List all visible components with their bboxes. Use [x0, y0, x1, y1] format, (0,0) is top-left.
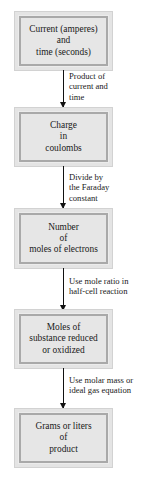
node-current-time: Current (amperes) and time (seconds) [15, 12, 112, 70]
node-charge: Charge in coulombs [15, 108, 112, 166]
node-moles-substance-inner: Moles of substance reduced or oxidized [19, 314, 108, 364]
edge-label: Use mole ratio in half-cell reaction [69, 276, 128, 297]
node-label: Current (amperes) and time (seconds) [29, 24, 97, 58]
arrow-down-icon [63, 268, 64, 310]
arrow-down-icon [63, 166, 64, 208]
node-moles-electrons: Number of moles of electrons [15, 209, 112, 268]
edge-label: Divide by the Faraday constant [69, 172, 109, 203]
node-label: Charge in coulombs [45, 120, 81, 154]
arrow-down-icon [63, 368, 64, 408]
node-current-time-inner: Current (amperes) and time (seconds) [19, 16, 108, 66]
edge-label: Use molar mass or ideal gas equation [69, 375, 133, 396]
node-charge-inner: Charge in coulombs [19, 112, 108, 162]
node-label: Number of moles of electrons [29, 222, 98, 256]
node-product: Grams or liters of product [15, 409, 112, 467]
node-moles-electrons-inner: Number of moles of electrons [19, 213, 108, 264]
node-product-inner: Grams or liters of product [19, 413, 108, 463]
arrow-down-icon [63, 70, 64, 107]
node-label: Grams or liters of product [35, 421, 91, 455]
node-label: Moles of substance reduced or oxidized [29, 322, 97, 356]
node-moles-substance: Moles of substance reduced or oxidized [15, 310, 112, 368]
edge-label: Product of current and time [69, 71, 108, 102]
